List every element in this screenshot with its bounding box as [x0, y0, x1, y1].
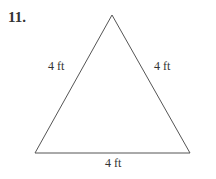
left-side-label: 4 ft — [48, 60, 64, 72]
triangle-shape — [35, 15, 190, 153]
triangle-figure — [0, 0, 216, 179]
right-side-label: 4 ft — [154, 60, 170, 72]
bottom-side-label: 4 ft — [105, 157, 121, 169]
